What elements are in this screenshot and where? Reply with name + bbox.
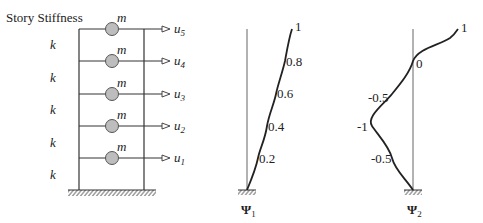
mode2-label: 1: [461, 20, 468, 35]
displacement-label: u1: [174, 150, 185, 167]
displacement-label: u3: [174, 86, 186, 103]
mode1-symbol: Ψ1: [241, 202, 256, 219]
mass-label: m: [117, 75, 126, 90]
mass-label: m: [117, 10, 126, 25]
displacement-label: u5: [174, 21, 186, 38]
mass-label: m: [117, 107, 126, 122]
mode-shape-diagram: Story Stiffness m u5 m u4 m: [0, 0, 483, 223]
shear-frame: Story Stiffness m u5 m u4 m: [6, 10, 186, 196]
stiffness-label: k: [50, 70, 56, 85]
mode-shape-1: 1 0.8 0.6 0.4 0.2 Ψ1: [238, 19, 302, 219]
mode2-label: -1: [357, 119, 368, 134]
arrow-icon: [162, 155, 170, 161]
arrow-icon: [162, 123, 170, 129]
arrow-icon: [162, 26, 170, 32]
displacement-label: u2: [174, 118, 186, 135]
mode2-label: -0.5: [371, 151, 392, 166]
floor-1: m u1: [79, 139, 185, 167]
floor-2: m u2: [79, 107, 186, 135]
stiffness-label: k: [50, 167, 56, 182]
floor-3: m u3: [79, 75, 186, 103]
floor-5: m u5: [79, 10, 186, 38]
stiffness-label: k: [50, 37, 56, 52]
story-stiffness-title: Story Stiffness: [6, 10, 83, 25]
mode1-label: 0.6: [277, 86, 294, 101]
mode1-support: [238, 190, 256, 195]
mode2-symbol: Ψ2: [407, 202, 422, 219]
displacement-label: u4: [174, 53, 186, 70]
stiffness-label: k: [50, 102, 56, 117]
arrow-icon: [162, 58, 170, 64]
mode2-label: -0.5: [368, 90, 389, 105]
mode1-label: 0.2: [259, 151, 275, 166]
stiffness-label: k: [50, 135, 56, 150]
mode1-label: 0.4: [268, 119, 285, 134]
mode1-label: 1: [295, 19, 302, 34]
mode2-support: [404, 190, 422, 195]
mass-label: m: [117, 42, 126, 57]
mode1-label: 0.8: [286, 54, 302, 69]
floor-4: m u4: [79, 42, 186, 70]
mode-shape-2: 1 0 -0.5 -1 -0.5 Ψ2: [357, 20, 468, 219]
mass-label: m: [117, 139, 126, 154]
ground-hatch: [68, 190, 156, 196]
arrow-icon: [162, 91, 170, 97]
mode2-label: 0: [416, 56, 423, 71]
